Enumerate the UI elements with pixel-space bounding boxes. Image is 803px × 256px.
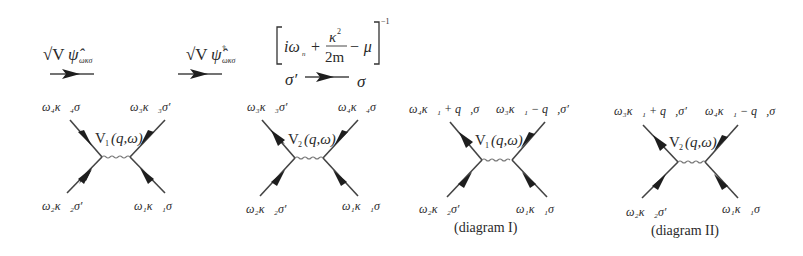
arrow-line-icon <box>178 69 222 79</box>
leg-label-top-right: ω₄κ⃗₄σ <box>338 100 377 114</box>
vertex-subscript: 1 <box>105 139 109 148</box>
legend-creation-superscript: † <box>222 44 226 53</box>
vertex-args: (q,ω) <box>304 131 336 148</box>
legend-creation-subscript: ωκσ <box>222 56 236 65</box>
diagram-caption: (diagram II) <box>651 223 719 239</box>
interaction-wavy-line <box>678 161 705 163</box>
propagator-denominator: 2m <box>325 49 345 65</box>
leg-label-bottom-left: ω₂κ⃗₂σ′ <box>419 202 460 216</box>
leg-label-top-left: ω₃κ⃗₃σ′ <box>247 100 288 114</box>
vertex-args: (q,ω) <box>685 134 717 151</box>
leg-label-top-right: ω₄κ⃗₁ − q⃗,σ <box>705 104 776 118</box>
leg-label-bottom-right: ω₁κ⃗₁σ <box>722 202 761 216</box>
arrow-icon <box>140 168 154 184</box>
arrow-icon <box>334 130 348 146</box>
leg-label-bottom-right: ω₁κ⃗₁σ <box>342 199 381 213</box>
propagator-numerator: κ <box>329 29 337 45</box>
diagram-3: ω₄κ⃗₁ + q⃗,σ ω₃κ⃗₁ − q⃗,σ′ V 1 (q,ω) ω₂κ… <box>409 102 569 236</box>
feynman-diagrams-figure: √V ψ̂ ωκσ √V ψ̂ † ωκσ iω n + κ 2 2m − μ … <box>0 0 803 256</box>
leg-label-bottom-right: ω₁κ⃗₁σ <box>134 199 173 213</box>
arrow-icon <box>714 174 728 190</box>
leg-label-bottom-left: ω₂κ⃗₂σ′ <box>42 199 83 213</box>
arrow-icon <box>78 168 92 184</box>
vertex-subscript: 2 <box>679 143 683 152</box>
leg-label-top-right: ω₃κ⃗₁ − q⃗,σ′ <box>496 102 569 116</box>
leg-label-bottom-right: ω₁κ⃗₁σ <box>516 202 555 216</box>
arrow-icon <box>271 170 285 186</box>
leg-label-bottom-left: ω₂κ⃗₂σ′ <box>626 205 667 219</box>
interaction-wavy-line <box>295 157 323 159</box>
arrow-icon <box>652 174 666 190</box>
arrow-icon <box>333 170 347 186</box>
propagator-minus: − μ <box>349 38 372 56</box>
propagator-term1: iω <box>284 38 300 55</box>
vertex-args: (q,ω) <box>111 130 143 147</box>
arrow-icon <box>458 172 472 188</box>
diagram-4: ω₃κ⃗₁ + q⃗,σ′ ω₄κ⃗₁ − q⃗,σ V 2 (q,ω) ω₂κ… <box>614 104 776 239</box>
arrow-line-icon <box>305 72 349 82</box>
legend-annihilation: √V ψ̂ ωκσ <box>43 45 94 79</box>
leg-label-top-right: ω₃κ⃗₃σ′ <box>130 100 171 114</box>
propagator-from-spin: σ′ <box>285 70 297 89</box>
arrow-line-icon <box>50 69 94 79</box>
legend-annihilation-subscript: ωκσ <box>79 56 93 65</box>
bracket-right-icon <box>374 22 379 64</box>
legend-propagator: iω n + κ 2 2m − μ −1 σ′ σ <box>277 17 390 91</box>
vertex-subscript: 1 <box>485 141 489 150</box>
leg-label-top-left: ω₃κ⃗₁ + q⃗,σ′ <box>614 104 687 118</box>
arrow-icon <box>78 130 92 146</box>
leg-label-top-left: ω₄κ⃗₁ + q⃗,σ <box>409 102 480 116</box>
legend-creation: √V ψ̂ † ωκσ <box>178 44 236 79</box>
diagram-1: ω₄κ⃗₄σ ω₃κ⃗₃σ′ V 1 (q,ω) ω₂κ⃗₂σ′ ω₁κ⃗₁σ <box>42 100 173 213</box>
propagator-to-spin: σ <box>357 72 366 91</box>
vertex-subscript: 2 <box>298 140 302 149</box>
diagram-2: ω₃κ⃗₃σ′ ω₄κ⃗₄σ V 2 (q,ω) ω₂κ⃗₂σ′ ω₁κ⃗₁σ <box>246 100 381 216</box>
propagator-term1-sub: n <box>302 50 306 58</box>
legend-annihilation-prefix: √V <box>43 45 65 64</box>
fermion-line <box>705 162 738 198</box>
arrow-icon <box>522 172 536 188</box>
vertex-args: (q,ω) <box>491 132 523 149</box>
leg-label-bottom-left: ω₂κ⃗₂σ′ <box>246 202 287 216</box>
diagram-caption: (diagram I) <box>454 220 518 236</box>
propagator-plus: + <box>311 38 320 55</box>
propagator-numerator-sup: 2 <box>337 27 341 36</box>
propagator-exponent: −1 <box>381 17 390 26</box>
interaction-wavy-line <box>482 159 510 161</box>
interaction-wavy-line <box>102 156 130 158</box>
leg-label-top-left: ω₄κ⃗₄σ <box>42 100 81 114</box>
bracket-left-icon <box>277 27 282 64</box>
legend-creation-prefix: √V <box>186 45 208 64</box>
arrow-icon <box>521 132 535 148</box>
